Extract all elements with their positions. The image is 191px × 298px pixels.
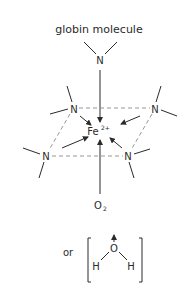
nitrogen-lower-right-group: N [110, 138, 150, 178]
right-bracket [139, 238, 142, 282]
nitrogen-upper-left: N [70, 104, 77, 115]
iron-center: Fe 2+ [87, 124, 110, 137]
oxygen-subscript: 2 [103, 205, 107, 212]
oxygen-symbol: O [94, 200, 102, 211]
nitrogen-upper-right-group: N [121, 86, 177, 124]
water-oxygen: O [110, 243, 118, 254]
nitrogen-upper-right: N [151, 104, 158, 115]
water-hydrogen-left: H [92, 261, 100, 272]
iron-symbol: Fe [87, 126, 98, 137]
water-ligand: O H H [88, 235, 142, 282]
water-hydrogen-right: H [127, 261, 135, 272]
heme-coordination-diagram: globin molecule N N N Fe 2+ N [0, 0, 191, 298]
nitrogen-lower-left: N [42, 151, 49, 162]
oxygen-ligand: O 2 [94, 200, 107, 212]
globin-nitrogen: N [96, 55, 103, 66]
globin-molecule-label: globin molecule [55, 23, 143, 36]
globin-nitrogen-group: N [84, 42, 117, 122]
iron-charge: 2+ [101, 124, 110, 131]
left-bracket [88, 238, 91, 282]
alternative-label: or [63, 247, 74, 258]
nitrogen-upper-left-group: N [50, 86, 91, 125]
nitrogen-lower-right: N [124, 151, 131, 162]
nitrogen-lower-left-group: N [23, 137, 88, 178]
